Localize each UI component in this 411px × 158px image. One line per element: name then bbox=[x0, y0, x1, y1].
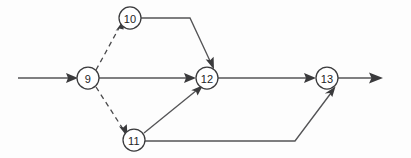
edge-node-9-to-node-10 bbox=[96, 20, 124, 70]
edge-entry-to-node-9 bbox=[18, 73, 78, 83]
edge-node-11-to-node-13 bbox=[145, 87, 336, 141]
edge-node-9-to-node-12 bbox=[99, 73, 196, 83]
node-11-label: 11 bbox=[128, 135, 140, 147]
node-12[interactable]: 12 bbox=[196, 67, 218, 89]
network-diagram: 9 10 11 12 13 bbox=[0, 0, 411, 158]
node-9[interactable]: 9 bbox=[77, 67, 99, 89]
edge-node-11-to-node-12 bbox=[144, 85, 203, 133]
node-12-label: 12 bbox=[201, 73, 214, 85]
edge-node-12-to-node-13 bbox=[218, 73, 316, 83]
edge-11-12-line bbox=[144, 90, 197, 133]
edge-11-13-line bbox=[145, 93, 331, 141]
node-10[interactable]: 10 bbox=[119, 7, 141, 29]
node-13-label: 13 bbox=[321, 73, 334, 85]
edge-10-12-line bbox=[141, 18, 211, 62]
diagram-canvas: 9 10 11 12 13 bbox=[0, 0, 411, 158]
node-11[interactable]: 11 bbox=[123, 129, 145, 151]
node-9-label: 9 bbox=[85, 73, 91, 85]
edge-9-11-line bbox=[96, 87, 123, 129]
edge-9-10-line bbox=[96, 28, 119, 70]
node-10-label: 10 bbox=[124, 13, 137, 25]
edge-node-10-to-node-12 bbox=[141, 18, 214, 70]
node-13[interactable]: 13 bbox=[316, 67, 338, 89]
edge-node-9-to-node-11 bbox=[96, 87, 128, 137]
edge-node-13-to-exit bbox=[338, 73, 383, 84]
